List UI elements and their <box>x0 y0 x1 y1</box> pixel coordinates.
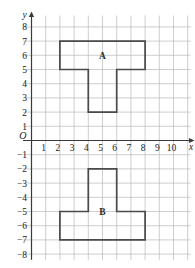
shape-label-b: B <box>99 207 106 217</box>
y-axis-arrowhead <box>29 12 34 18</box>
x-tick-label: 2 <box>56 143 61 153</box>
y-axis-label: y <box>21 10 27 20</box>
y-tick-label: −3 <box>17 179 27 189</box>
y-tick-label: 3 <box>22 93 27 103</box>
coordinate-grid-svg: 1234567891087654321−1−2−3−4−5−6−7−8OxyAB <box>0 0 195 268</box>
x-tick-label: 8 <box>141 143 146 153</box>
x-axis-label: x <box>188 142 194 152</box>
origin-label: O <box>19 130 26 141</box>
x-tick-label: 9 <box>155 143 160 153</box>
y-tick-label: 4 <box>22 79 27 89</box>
y-tick-label: 6 <box>22 51 27 61</box>
y-tick-label: −8 <box>17 250 27 260</box>
y-tick-label: 8 <box>22 22 27 32</box>
x-tick-label: 6 <box>112 143 117 153</box>
shape-label-a: A <box>99 51 106 61</box>
x-tick-label: 7 <box>127 143 132 153</box>
y-tick-label: 7 <box>22 37 27 47</box>
y-tick-label: −5 <box>17 207 27 217</box>
coordinate-plane-figure: 1234567891087654321−1−2−3−4−5−6−7−8OxyAB <box>0 0 195 268</box>
y-tick-label: 2 <box>22 108 27 118</box>
y-tick-label: −2 <box>17 164 27 174</box>
x-tick-label: 10 <box>167 143 177 153</box>
y-tick-label: 5 <box>22 65 27 75</box>
x-tick-label: 4 <box>84 143 89 153</box>
x-tick-label: 1 <box>41 143 46 153</box>
y-tick-label: −7 <box>17 235 27 245</box>
x-tick-label: 5 <box>98 143 103 153</box>
y-tick-label: −1 <box>17 150 27 160</box>
x-tick-label: 3 <box>70 143 75 153</box>
y-tick-label: −4 <box>17 193 27 203</box>
y-tick-label: −6 <box>17 221 27 231</box>
